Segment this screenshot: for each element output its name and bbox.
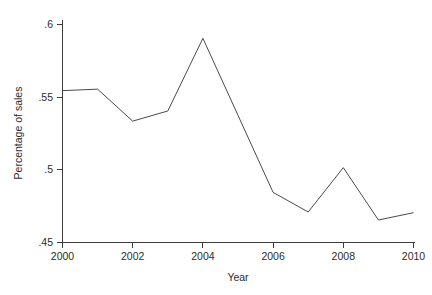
x-tick-label-2006: 2006	[261, 250, 285, 262]
y-tick-label-45: .45	[38, 236, 53, 248]
line-chart: .45 .5 .55 .6 2000 2002 2004 2006 2008 2…	[0, 0, 432, 295]
x-tick-label-2000: 2000	[51, 250, 75, 262]
data-series-line	[63, 38, 414, 220]
x-tick-label-2008: 2008	[332, 250, 356, 262]
y-tick-label-50: .5	[44, 163, 53, 175]
x-tick-label-2004: 2004	[191, 250, 215, 262]
x-axis-title: Year	[227, 271, 249, 283]
x-tick-label-2002: 2002	[121, 250, 145, 262]
chart-container: .45 .5 .55 .6 2000 2002 2004 2006 2008 2…	[0, 0, 432, 295]
y-axis-title: Percentage of sales	[12, 87, 24, 180]
y-tick-label-60: .6	[44, 18, 53, 30]
x-tick-label-2010: 2010	[402, 250, 426, 262]
y-tick-label-55: .55	[38, 91, 53, 103]
